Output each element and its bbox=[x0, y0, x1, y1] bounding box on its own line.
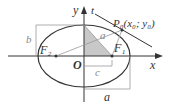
segment-c-label: c bbox=[95, 67, 100, 78]
segment-b-label: b bbox=[26, 34, 32, 45]
x-axis-label: x bbox=[150, 59, 155, 71]
x-axis-arrow bbox=[155, 53, 163, 59]
segment-a-inside-label: a bbox=[100, 30, 106, 41]
focus-f2-label: F₂ bbox=[40, 44, 52, 56]
segment-a-bottom-label: a bbox=[104, 91, 110, 103]
ellipse-diagram bbox=[0, 0, 170, 105]
y-axis-label: y bbox=[73, 4, 78, 16]
origin-label: O bbox=[73, 59, 82, 71]
p0-label: P₀(x₀; y₀) bbox=[113, 18, 155, 29]
p0-name: P₀ bbox=[113, 17, 124, 29]
p0-coords: (x₀; y₀) bbox=[124, 17, 155, 29]
y-axis-arrow bbox=[81, 6, 87, 14]
focus-f1-label: F₁ bbox=[114, 42, 126, 54]
tangent-label: t bbox=[91, 5, 94, 16]
focus-f2-point bbox=[55, 55, 58, 58]
